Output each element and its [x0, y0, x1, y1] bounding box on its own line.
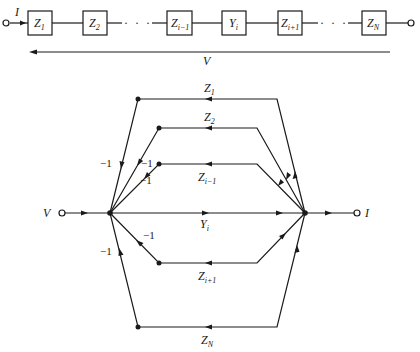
ladder-network: I Z1 Z2 · · · Zi−1 Yi Zi+1 · · · ZN V	[3, 5, 414, 68]
branch-zi-plus-1	[110, 213, 305, 263]
arrow-left-icon	[29, 50, 37, 55]
node	[136, 97, 141, 102]
arrow-right-icon	[202, 211, 209, 216]
arrow-up-icon	[278, 179, 284, 186]
branch-label: ZN	[201, 333, 214, 349]
gain-label: −1	[140, 174, 152, 186]
output-terminal	[354, 210, 360, 216]
input-terminal	[59, 210, 65, 216]
ellipsis: · · ·	[124, 16, 152, 30]
arrow-right-icon	[81, 211, 88, 216]
arrow-left-icon	[205, 261, 212, 266]
signal-flow-graph: V I Yi Z1 −1 Z2 −1 Zi−	[43, 81, 370, 349]
arrow-down-icon	[120, 161, 125, 169]
gain-label: −1	[141, 157, 153, 169]
branch-zi-minus-1	[110, 164, 305, 213]
arrow-down-icon	[295, 245, 300, 253]
node	[157, 126, 162, 131]
branch-label: Zi−1	[198, 170, 216, 186]
branch-label: Zi+1	[198, 269, 216, 285]
voltage-label: V	[203, 54, 212, 68]
node	[157, 261, 162, 266]
branch-label: Z1	[204, 81, 215, 97]
node-right	[302, 210, 308, 216]
node	[157, 162, 162, 167]
arrow-up-icon	[286, 172, 291, 180]
output-current-label: I	[364, 206, 370, 220]
ellipsis: · · ·	[320, 16, 348, 30]
branch-z2	[110, 128, 305, 213]
arrow-up-icon	[293, 171, 298, 179]
output-terminal	[408, 20, 414, 26]
branch-label: Yi	[200, 217, 209, 233]
arrow-left-icon	[205, 97, 212, 102]
arrow-right-icon	[276, 211, 283, 216]
arrow-left-icon	[205, 325, 212, 330]
arrow-left-icon	[205, 126, 212, 131]
arrow-right-icon	[325, 211, 332, 216]
gain-label: −1	[143, 229, 155, 241]
gain-label: −1	[100, 245, 112, 257]
node-left	[107, 210, 113, 216]
input-terminal	[3, 20, 9, 26]
input-voltage-label: V	[43, 206, 52, 220]
figure: I Z1 Z2 · · · Zi−1 Yi Zi+1 · · · ZN V V …	[0, 0, 420, 352]
current-arrow-icon	[20, 21, 26, 26]
gain-label: −1	[100, 157, 112, 169]
branch-label: Z2	[204, 110, 215, 126]
node	[136, 325, 141, 330]
input-current-label: I	[14, 5, 20, 19]
arrow-left-icon	[205, 162, 212, 167]
arrow-up-icon	[119, 248, 124, 256]
